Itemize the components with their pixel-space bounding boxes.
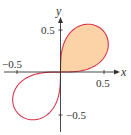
x-tick-label-pos: 0.5 — [96, 77, 110, 89]
y-tick-label-pos: 0.5 — [41, 24, 55, 36]
shaded-loop-q1 — [61, 24, 109, 72]
x-axis-label: x — [120, 65, 127, 79]
x-tick-label-neg: −0.5 — [2, 58, 22, 70]
y-tick-label-neg: −0.5 — [66, 109, 86, 121]
x-axis-arrow-icon — [114, 70, 120, 75]
polar-plot: y x −0.5 0.5 0.5 −0.5 — [0, 0, 131, 135]
y-axis-label: y — [55, 4, 62, 18]
